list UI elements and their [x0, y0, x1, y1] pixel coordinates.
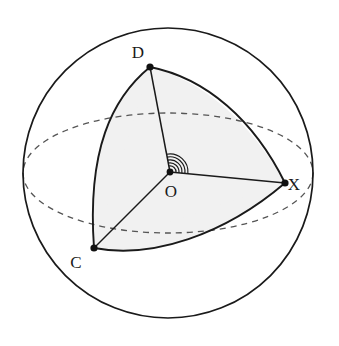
- shaded-spherical-sector: [93, 67, 285, 251]
- vertex-label-X: X: [288, 175, 300, 194]
- sphere-diagram-canvas: D X C O: [0, 0, 339, 346]
- vertex-label-C: C: [70, 253, 81, 272]
- vertex-label-D: D: [132, 43, 144, 62]
- vertex-dot-D: [146, 63, 153, 70]
- vertex-label-O: O: [165, 182, 177, 201]
- spherical-triangle-figure: D X C O: [0, 0, 339, 346]
- vertex-dot-O: [167, 169, 174, 176]
- vertex-dot-C: [90, 244, 97, 251]
